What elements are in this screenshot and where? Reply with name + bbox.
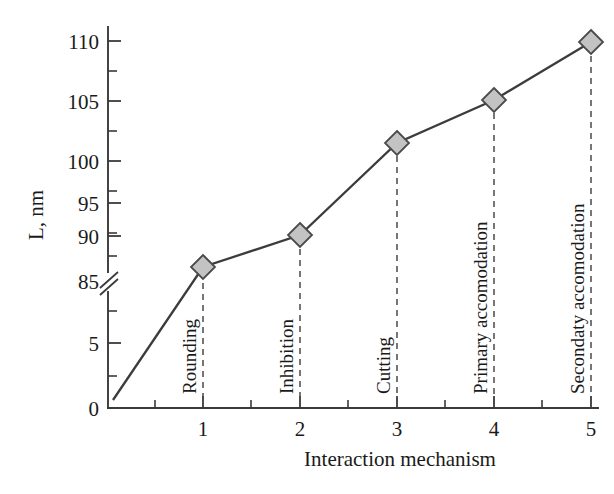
y-axis-ticks-lower	[108, 311, 121, 376]
x-axis-title: Interaction mechanism	[304, 447, 496, 471]
point-annotation: Cutting	[373, 336, 394, 394]
y-tick-label: 110	[68, 30, 99, 54]
y-axis-break-marks	[100, 272, 118, 295]
point-annotations-group: Rounding Inhibition Cutting Primary acco…	[179, 203, 588, 394]
y-axis-ticks-upper	[108, 41, 121, 256]
data-point-marker	[579, 30, 603, 54]
x-axis-tick-labels: 1 2 3 4 5	[198, 417, 597, 441]
data-point-marker	[482, 88, 506, 112]
x-tick-label: 5	[586, 417, 597, 441]
y-tick-label: 0	[89, 397, 100, 421]
data-point-marker	[191, 255, 215, 279]
x-tick-label: 1	[198, 417, 209, 441]
x-tick-label: 4	[489, 417, 500, 441]
point-annotation: Secondaty accomodation	[567, 203, 588, 394]
droplines-group	[203, 45, 591, 405]
y-tick-label: 90	[78, 225, 99, 249]
y-tick-label: 100	[68, 150, 100, 174]
y-tick-label: 95	[78, 192, 99, 216]
y-tick-label: 85	[78, 270, 99, 294]
data-markers-group	[191, 30, 603, 279]
y-tick-label: 5	[89, 332, 100, 356]
x-tick-label: 3	[392, 417, 403, 441]
chart-figure: 110 105 100 95 90 85 5 0 1 2 3 4 5 L, nm…	[0, 0, 614, 494]
x-axis-ticks	[155, 396, 591, 408]
point-annotation: Primary accomodation	[470, 221, 491, 394]
point-annotation: Inhibition	[276, 319, 297, 394]
line-chart-canvas: 110 105 100 95 90 85 5 0 1 2 3 4 5 L, nm…	[0, 0, 614, 494]
x-tick-label: 2	[295, 417, 306, 441]
y-tick-label: 105	[68, 90, 100, 114]
y-axis-title: L, nm	[24, 190, 48, 240]
y-axis-tick-labels: 110 105 100 95 90 85 5 0	[68, 30, 100, 421]
point-annotation: Rounding	[179, 319, 200, 394]
